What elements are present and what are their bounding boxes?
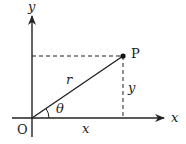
y-component-label: y [127, 80, 136, 95]
angle-arc [46, 109, 49, 119]
point-label: P [131, 46, 140, 61]
origin-label: O [17, 122, 28, 137]
radius-line [32, 56, 123, 118]
angle-label: θ [56, 101, 64, 116]
point-p-marker [120, 53, 125, 58]
x-axis-label: x [171, 110, 179, 125]
polar-coordinate-diagram: y x O P r θ x y [0, 0, 186, 144]
y-axis-label: y [27, 0, 36, 14]
radius-label: r [66, 72, 73, 87]
x-component-label: x [82, 121, 90, 136]
